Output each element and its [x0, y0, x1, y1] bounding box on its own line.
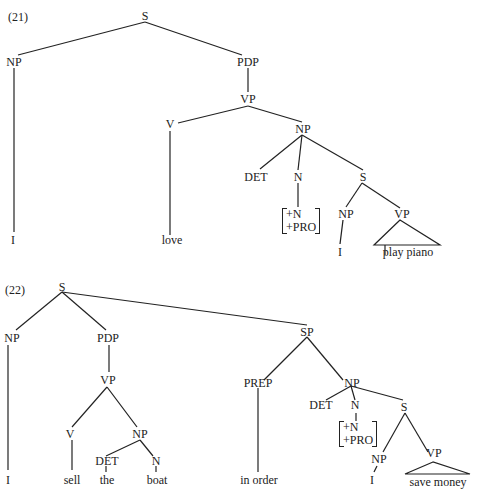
node-v: V	[66, 428, 75, 440]
node-pdp: PDP	[237, 56, 259, 68]
example-number-21: (21)	[8, 10, 28, 25]
node-det: DET	[244, 171, 267, 183]
node-s: S	[142, 10, 149, 22]
node-prep: PREP	[244, 377, 273, 389]
node-det: DET	[309, 399, 332, 411]
word-i: I	[370, 474, 374, 486]
node-np: NP	[4, 332, 19, 344]
node-np: NP	[371, 453, 386, 465]
word-i: I	[6, 474, 10, 486]
node-np: NP	[132, 428, 147, 440]
node-n: N	[351, 399, 360, 411]
node-s: S	[59, 281, 66, 293]
node-vp: VP	[394, 208, 409, 220]
node-s: S	[401, 401, 408, 413]
feature-matrix: +N +PRO	[339, 421, 377, 447]
node-v: V	[166, 118, 175, 130]
word-boat: boat	[147, 474, 168, 486]
node-np: NP	[295, 123, 310, 135]
node-np: NP	[6, 56, 21, 68]
node-det: DET	[95, 455, 118, 467]
node-n: N	[294, 171, 303, 183]
node-s: S	[360, 171, 367, 183]
feature-pro: +PRO	[343, 434, 373, 447]
node-n: N	[152, 455, 161, 467]
feature-pro: +PRO	[286, 221, 316, 234]
node-vp: VP	[426, 447, 441, 459]
word-love: love	[162, 234, 183, 246]
word-play-piano: play piano	[383, 246, 433, 258]
node-vp: VP	[240, 93, 255, 105]
word-save-money: save money	[410, 476, 467, 488]
feature-matrix: +N +PRO	[282, 208, 320, 234]
node-np: NP	[344, 377, 359, 389]
node-vp: VP	[100, 374, 115, 386]
word-i: I	[11, 234, 15, 246]
node-np: NP	[338, 208, 353, 220]
word-the: the	[100, 474, 115, 486]
word-sell: sell	[64, 474, 81, 486]
node-sp: SP	[300, 326, 313, 338]
example-number-22: (22)	[5, 283, 25, 298]
word-i: I	[338, 246, 342, 258]
word-in-order: in order	[240, 474, 278, 486]
node-pdp: PDP	[97, 332, 119, 344]
